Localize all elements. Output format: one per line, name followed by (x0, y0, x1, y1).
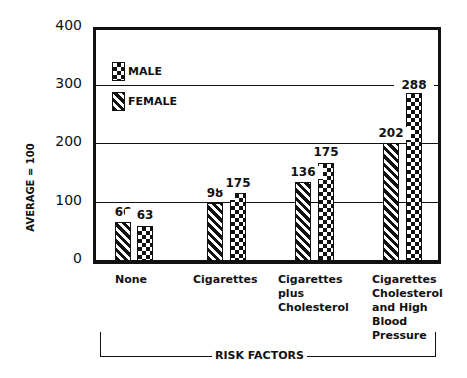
gridline-300 (96, 85, 438, 86)
y-tick-300: 300 (42, 75, 82, 91)
value-label-female-cig-chol: 136 (283, 166, 323, 179)
checkerboard-swatch-icon (112, 62, 125, 81)
legend-female-label: FEMALE (128, 95, 177, 108)
x-category-none: None (115, 273, 147, 287)
value-label-male-none: 63 (125, 209, 165, 222)
value-label-male-cigarettes: 175 (218, 177, 258, 190)
bar-female-cigarettes (207, 203, 223, 260)
x-axis-title: RISK FACTORS (212, 349, 307, 362)
y-tick-0: 0 (42, 250, 82, 266)
y-tick-100: 100 (42, 192, 82, 208)
legend-male-label: MALE (128, 65, 162, 78)
y-tick-400: 400 (42, 17, 82, 33)
y-tick-200: 200 (42, 133, 82, 149)
hatch-swatch-icon (112, 92, 125, 111)
bar-male-cig-chol-bp (406, 93, 422, 260)
bar-female-none (115, 222, 131, 260)
legend-female: FEMALE (112, 92, 180, 111)
y-axis-title: AVERAGE = 100 (25, 128, 36, 248)
legend-male: MALE (112, 62, 165, 81)
bar-male-none (137, 226, 153, 260)
value-label-male-cig-chol-bp: 288 (394, 79, 434, 92)
x-category-cigarettes: Cigarettes (193, 273, 258, 287)
value-label-male-cig-chol: 175 (306, 146, 346, 159)
bar-female-cig-chol-bp (383, 143, 399, 260)
value-label-female-cig-chol-bp: 202 (371, 127, 411, 140)
bar-female-cig-chol (295, 182, 311, 260)
x-category-cig-chol: Cigarettes plus Cholesterol (278, 273, 349, 315)
plot-area: MALE FEMALE 66 63 98 175 136 175 202 288 (93, 27, 441, 264)
bar-male-cigarettes (230, 193, 246, 260)
